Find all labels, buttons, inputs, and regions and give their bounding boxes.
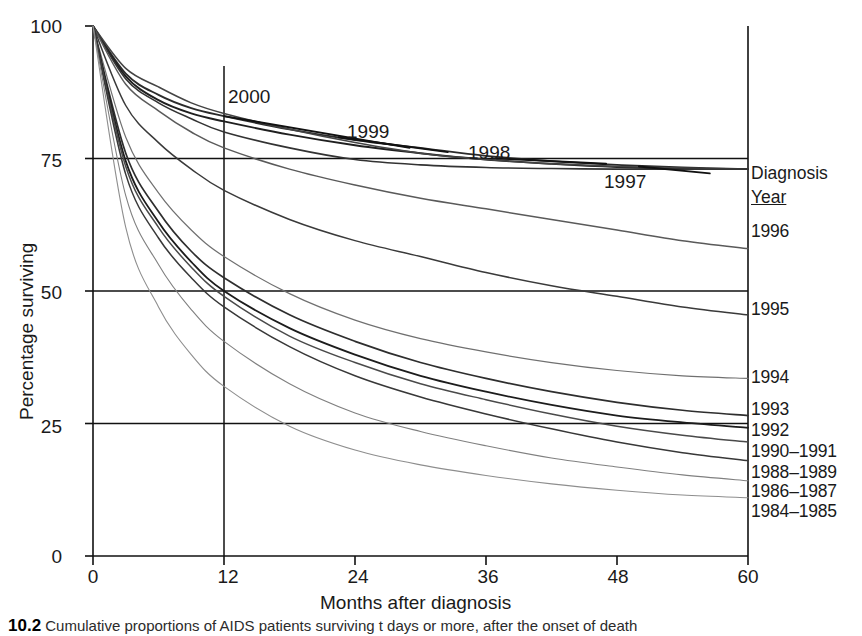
y-tick-75: 75 [18, 150, 62, 172]
legend-item-1993: 1993 [751, 399, 789, 420]
caption-text: Cumulative proportions of AIDS patients … [45, 617, 637, 634]
x-tick-0: 0 [68, 566, 118, 588]
curve-1996 [93, 26, 748, 249]
legend-item-1986-1987: 1986–1987 [751, 481, 837, 502]
x-axis-title: Months after diagnosis [320, 592, 511, 614]
legend-item-1988-1989: 1988–1989 [751, 462, 837, 483]
figure-container: 100 75 50 25 0 0 12 24 36 48 60 Percenta… [0, 0, 862, 636]
caption-number: 10.2 [8, 616, 41, 635]
curve-1993 [93, 26, 748, 416]
legend-item-1994: 1994 [751, 367, 789, 388]
curve-label-1997: 1997 [604, 171, 646, 193]
y-tick-100: 100 [18, 16, 62, 38]
gridlines-group [93, 66, 748, 556]
curve-1995 [93, 26, 748, 315]
curve-label-1998: 1998 [468, 142, 510, 164]
legend-item-1992: 1992 [751, 420, 789, 441]
curve-label-2000: 2000 [228, 86, 270, 108]
x-tick-48: 48 [593, 566, 643, 588]
x-tick-60: 60 [723, 566, 773, 588]
survival-chart [0, 0, 862, 636]
figure-caption: 10.2 Cumulative proportions of AIDS pati… [8, 616, 637, 636]
legend-item-1984-1985: 1984–1985 [751, 501, 837, 522]
legend-title-line2: Year [751, 187, 786, 208]
legend-title-line1: Diagnosis [751, 163, 828, 184]
legend-item-1996: 1996 [751, 221, 789, 242]
y-axis-title: Percentage surviving [16, 243, 38, 420]
curve-1990-1991 [93, 26, 748, 442]
curve-label-1999: 1999 [347, 121, 389, 143]
curve-1988-1989 [93, 26, 748, 461]
x-tick-12: 12 [203, 566, 253, 588]
legend-item-1990-1991: 1990–1991 [751, 441, 837, 462]
curves-group [93, 26, 748, 498]
x-tick-24: 24 [333, 566, 383, 588]
curve-1992 [93, 26, 748, 428]
curve-1994 [93, 26, 748, 378]
legend-item-1995: 1995 [751, 299, 789, 320]
y-tick-0: 0 [18, 546, 62, 568]
x-tick-36: 36 [463, 566, 513, 588]
curve-1986-1987 [93, 26, 748, 481]
